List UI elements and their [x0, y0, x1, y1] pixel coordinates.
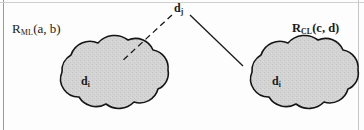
left-cloud-subscript: i [88, 80, 90, 89]
right-region-args: (c, d) [312, 21, 339, 35]
solid-connector-right [190, 15, 243, 66]
right-cloud-base: d [272, 74, 279, 88]
left-cloud-label: di [81, 74, 90, 89]
top-node-label: dj [174, 1, 183, 16]
diagram-svg [0, 0, 364, 130]
left-region-args: (a, b) [33, 21, 60, 36]
left-region-subscript: ML [21, 28, 33, 37]
figure-canvas: RML(a, b) RCL(c, d) dj di di [0, 0, 364, 130]
right-region-subscript: CL [301, 27, 312, 36]
right-region-base: R [292, 21, 301, 35]
left-cloud-base: d [81, 74, 88, 88]
left-region-base: R [12, 21, 21, 36]
right-cloud [251, 35, 359, 108]
left-cloud [61, 35, 169, 108]
top-node-base: d [174, 1, 181, 15]
right-cloud-subscript: i [279, 80, 281, 89]
right-cloud-label: di [272, 74, 281, 89]
right-region-label: RCL(c, d) [292, 21, 339, 36]
top-node-subscript: j [181, 7, 184, 16]
left-region-label: RML(a, b) [12, 21, 61, 37]
